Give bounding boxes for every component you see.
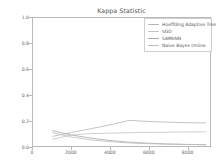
legend-label: SAMkNN [162, 35, 181, 42]
y-tick-label: 0.4 [5, 93, 29, 98]
legend-label: Naive Bayes Online [162, 42, 206, 49]
chart-title: Kappa Statistic [32, 6, 211, 15]
x-tick-mark [149, 147, 150, 150]
x-tick-label: 0 [31, 150, 34, 155]
y-tick-label: 0.2 [5, 119, 29, 124]
legend-item[interactable]: Hoeffding Adaptive Tree [147, 21, 209, 28]
x-tick-label: 2000 [65, 150, 77, 155]
series-line [52, 120, 206, 136]
legend-item[interactable]: SGD [147, 28, 209, 35]
legend-item[interactable]: SAMkNN [147, 35, 209, 42]
x-axis-tick-labels: 02000400060008000 [32, 148, 211, 162]
legend-color-swatch [148, 24, 159, 25]
legend-item[interactable]: Naive Bayes Online [147, 42, 209, 49]
chart-legend: Hoeffding Adaptive TreeSGDSAMkNNNaive Ba… [144, 18, 212, 52]
x-tick-label: 6000 [143, 150, 155, 155]
y-tick-label: 1.0 [5, 15, 29, 20]
y-axis-tick-labels: 0.00.20.40.60.81.0 [2, 17, 29, 147]
x-tick-mark [188, 147, 189, 150]
y-tick-label: 0.6 [5, 67, 29, 72]
legend-label: Hoeffding Adaptive Tree [162, 21, 216, 28]
chart-figure: Kappa Statistic 0.00.20.40.60.81.0 02000… [0, 0, 224, 168]
x-tick-mark [110, 147, 111, 150]
y-tick-mark [29, 95, 32, 96]
y-tick-label: 0.8 [5, 41, 29, 46]
y-tick-label: 0.0 [5, 145, 29, 150]
x-tick-label: 4000 [104, 150, 116, 155]
legend-color-swatch [148, 38, 159, 39]
y-tick-mark [29, 43, 32, 44]
y-tick-mark [29, 69, 32, 70]
y-tick-mark [29, 121, 32, 122]
x-tick-mark [32, 147, 33, 150]
legend-color-swatch [148, 31, 159, 32]
x-tick-label: 8000 [182, 150, 194, 155]
legend-color-swatch [148, 45, 159, 46]
y-tick-mark [29, 17, 32, 18]
x-tick-mark [71, 147, 72, 150]
legend-label: SGD [162, 28, 172, 35]
